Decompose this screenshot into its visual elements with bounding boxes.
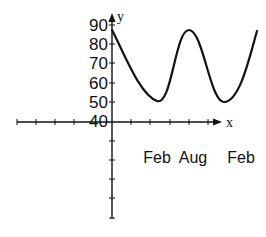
y-tick-50: 50 xyxy=(89,93,108,112)
y-axis-arrow-icon xyxy=(109,13,116,22)
y-axis-label: y xyxy=(117,9,124,24)
data-curve xyxy=(112,30,257,102)
x-axis-label: x xyxy=(226,115,233,130)
x-axis: x xyxy=(17,115,233,130)
month-label-aug: Aug xyxy=(179,149,207,166)
x-axis-arrow-icon xyxy=(213,119,222,126)
y-tick-70: 70 xyxy=(89,54,108,73)
month-label-feb-1: Feb xyxy=(143,149,171,166)
y-tick-60: 60 xyxy=(89,74,108,93)
y-tick-labels: 90 80 70 60 50 40 xyxy=(89,16,108,131)
x-month-labels: Feb Aug Feb xyxy=(143,149,255,166)
month-label-feb-2: Feb xyxy=(227,149,255,166)
y-tick-90: 90 xyxy=(89,16,108,35)
y-tick-80: 80 xyxy=(89,35,108,54)
chart: x y 90 80 70 60 50 40 Feb Aug Feb xyxy=(0,0,266,237)
y-tick-40: 40 xyxy=(89,112,108,131)
